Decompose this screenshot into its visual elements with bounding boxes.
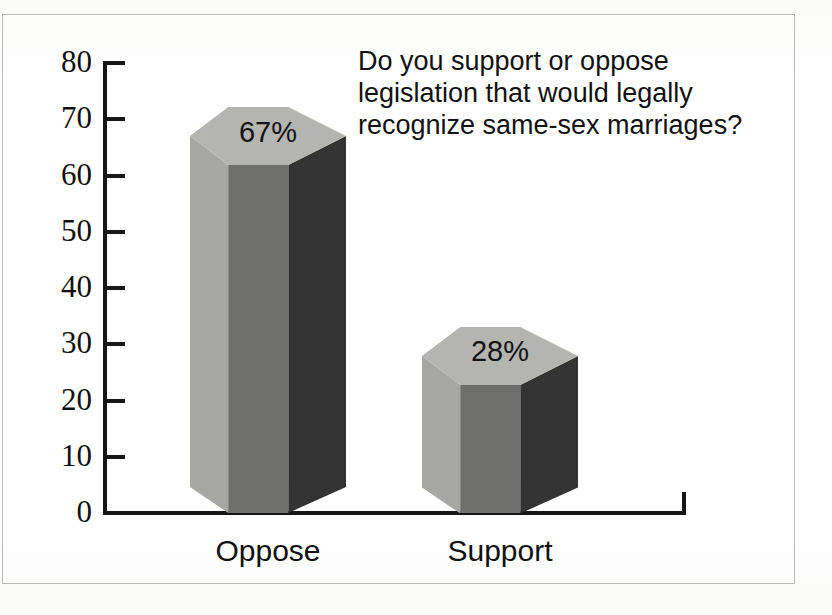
bar-right-face [288,136,346,513]
figure-canvas: 80706050403020100 67%Oppose28%Support Do… [0,0,832,615]
y-axis-tick-label: 10 [20,440,92,471]
bar-chart-plot: 80706050403020100 67%Oppose28%Support Do… [0,0,832,615]
bar-left-face [190,136,228,513]
y-axis-tick [103,174,125,178]
y-axis-tick [103,117,125,121]
bar-oppose: 67% [190,107,346,513]
y-axis-tick-label: 60 [20,159,92,190]
x-axis-end-tick [682,492,686,515]
x-axis-category-label: Oppose [190,535,346,567]
y-axis-tick [103,230,125,234]
y-axis-tick-label: 30 [20,327,92,358]
bar-value-label: 67% [190,118,346,147]
bar-prism-graphic [190,107,346,513]
y-axis-tick [103,342,125,346]
y-axis-tick-label: 20 [20,384,92,415]
x-axis-category-label: Support [422,535,578,567]
bar-front-face [228,165,288,513]
bar-support: 28% [422,327,578,514]
y-axis-tick-label: 80 [20,46,92,77]
y-axis-tick-label: 50 [20,215,92,246]
y-axis-tick [103,399,125,403]
y-axis-tick-label: 70 [20,102,92,133]
y-axis-tick-label: 0 [20,496,92,527]
bar-front-face [460,385,520,514]
y-axis-tick [103,61,125,65]
y-axis-tick-label: 40 [20,271,92,302]
y-axis-tick [103,455,125,459]
y-axis-tick [103,511,125,515]
y-axis-tick [103,286,125,290]
question-caption: Do you support or oppose legislation tha… [358,45,778,141]
bar-value-label: 28% [422,337,578,366]
